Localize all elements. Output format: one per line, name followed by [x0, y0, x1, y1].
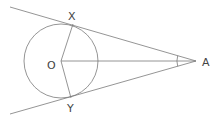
radius-ox [61, 24, 73, 61]
point-label-x: X [68, 10, 76, 23]
point-label-y: Y [66, 102, 74, 115]
diagram-canvas: X Y O A [0, 0, 221, 119]
point-label-a: A [202, 56, 210, 69]
radius-oy [61, 61, 71, 98]
point-label-o: O [47, 59, 56, 72]
tangent-line-ay [10, 61, 196, 114]
tangent-line-ax [10, 7, 196, 61]
